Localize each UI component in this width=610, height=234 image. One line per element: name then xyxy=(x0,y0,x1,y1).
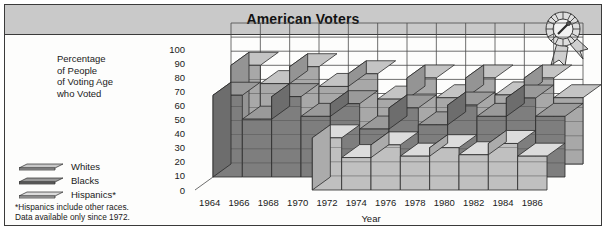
x-tick-1986: 1986 xyxy=(522,197,543,208)
x-tick-1978: 1978 xyxy=(404,197,425,208)
x-tick-1966: 1966 xyxy=(228,197,249,208)
ribbon-hispanics xyxy=(312,125,565,190)
x-tick-1968: 1968 xyxy=(258,197,279,208)
award-rosette-icon xyxy=(535,7,593,69)
y-caption-line-2: of People xyxy=(57,65,161,77)
legend-swatch-blacks xyxy=(19,177,63,185)
y-tick-60: 60 xyxy=(174,100,185,111)
y-caption-line-1: Percentage xyxy=(57,53,161,65)
x-tick-1976: 1976 xyxy=(375,197,396,208)
y-tick-30: 30 xyxy=(174,142,185,153)
chart-figure: American Voters xyxy=(0,0,610,234)
title-bar: American Voters xyxy=(5,5,601,35)
x-tick-labels: 1964196619681970197219741976197819801982… xyxy=(199,197,543,208)
footnote: *Hispanics include other races. Data ava… xyxy=(15,202,195,222)
ribbon-blacks xyxy=(213,82,583,177)
y-tick-20: 20 xyxy=(174,156,185,167)
grid-layer xyxy=(195,23,583,190)
y-tick-10: 10 xyxy=(174,170,185,181)
chart-frame: American Voters xyxy=(4,4,602,226)
y-tick-80: 80 xyxy=(174,72,185,83)
y-tick-labels: 0102030405060708090100 xyxy=(169,44,185,196)
y-tick-50: 50 xyxy=(174,114,185,125)
y-tick-90: 90 xyxy=(174,58,185,69)
footnote-line-1: *Hispanics include other races. xyxy=(15,202,195,212)
x-tick-1974: 1974 xyxy=(346,197,367,208)
y-caption-line-4: who Voted xyxy=(57,88,161,100)
x-tick-1964: 1964 xyxy=(199,197,220,208)
legend-swatch-hispanics xyxy=(19,191,63,199)
y-tick-70: 70 xyxy=(174,86,185,97)
data-ribbons xyxy=(213,52,601,190)
legend-label-whites: Whites xyxy=(71,161,100,172)
legend-item-blacks: Blacks xyxy=(19,175,139,187)
x-tick-1972: 1972 xyxy=(316,197,337,208)
y-caption-line-3: of Voting Age xyxy=(57,76,161,88)
y-tick-100: 100 xyxy=(169,44,185,55)
footnote-line-2: Data available only since 1972. xyxy=(15,212,195,222)
y-tick-40: 40 xyxy=(174,128,185,139)
legend-item-hispanics: Hispanics* xyxy=(19,189,139,201)
x-tick-1982: 1982 xyxy=(463,197,484,208)
ribbon-whites xyxy=(231,52,601,164)
y-tick-0: 0 xyxy=(180,185,185,196)
page-title: American Voters xyxy=(5,11,601,27)
chart-legend: Whites Blacks Hispanics* xyxy=(19,161,139,203)
legend-label-hispanics: Hispanics* xyxy=(71,189,116,200)
legend-label-blacks: Blacks xyxy=(71,175,99,186)
x-axis-title: Year xyxy=(361,213,380,224)
y-axis-caption: Percentage of People of Voting Age who V… xyxy=(57,53,161,99)
x-tick-1984: 1984 xyxy=(492,197,513,208)
x-tick-1980: 1980 xyxy=(434,197,455,208)
legend-swatch-whites xyxy=(19,163,63,171)
legend-item-whites: Whites xyxy=(19,161,139,173)
x-tick-1970: 1970 xyxy=(287,197,308,208)
